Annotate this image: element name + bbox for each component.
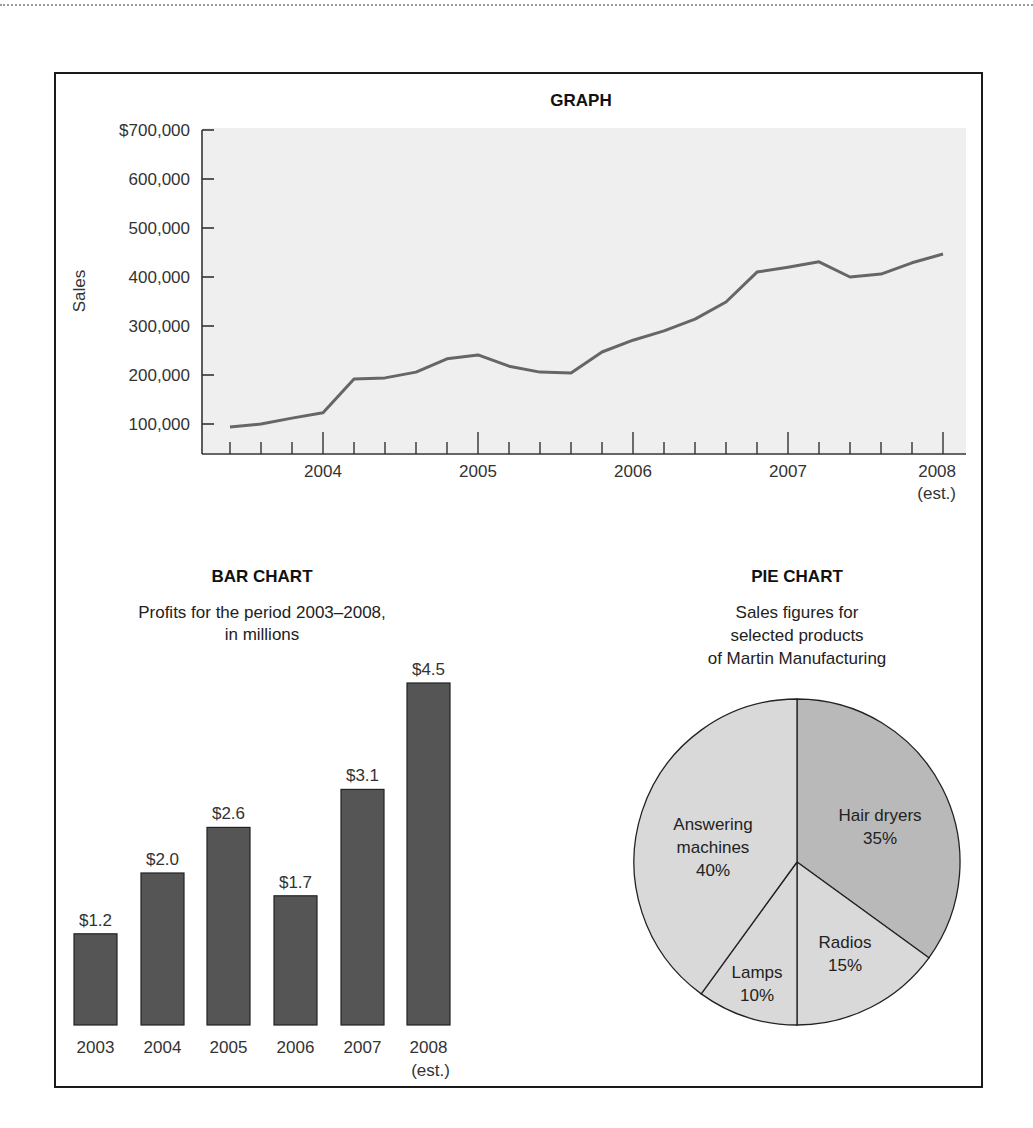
line-graph: GRAPH $700,000600,000500,000400,000300,0… (70, 91, 966, 503)
bar-2004 (141, 873, 184, 1025)
bar-value-label: $2.0 (146, 850, 179, 869)
pie-label-hair-dryers: Hair dryers (838, 806, 921, 825)
bar-2007 (341, 789, 384, 1025)
charts-canvas: GRAPH $700,000600,000500,000400,000300,0… (0, 0, 1033, 1128)
y-tick-label: 500,000 (129, 219, 190, 238)
bar-year-label: 2007 (344, 1038, 382, 1057)
pie-label-machines: machines (677, 838, 750, 857)
bar-est-note: (est.) (411, 1061, 450, 1080)
y-tick-label: 600,000 (129, 170, 190, 189)
bar-year-label: 2004 (144, 1038, 182, 1057)
x-tick-label: 2006 (614, 462, 652, 481)
x-est-note: (est.) (917, 484, 956, 503)
bar-chart-subtitle-2: in millions (225, 625, 300, 644)
y-tick-label: 100,000 (129, 415, 190, 434)
pie-slices (634, 699, 960, 1025)
y-tick-label: 200,000 (129, 366, 190, 385)
x-tick-label: 2008 (918, 462, 956, 481)
pie-label-lamps: Lamps (731, 963, 782, 982)
x-tick-label: 2005 (459, 462, 497, 481)
y-tick-label: $700,000 (119, 121, 190, 140)
bar-value-label: $1.2 (79, 911, 112, 930)
plot-area (203, 128, 966, 453)
pie-pct-hair-dryers: 35% (863, 829, 897, 848)
bar-value-label: $2.6 (212, 804, 245, 823)
x-tick-label: 2004 (304, 462, 342, 481)
bar-value-label: $4.5 (412, 660, 445, 679)
pie-chart: PIE CHART Sales figures for selected pro… (634, 567, 960, 1025)
bar-2005 (207, 827, 250, 1025)
pie-pct-answering-machines: 40% (696, 861, 730, 880)
bar-year-label: 2005 (210, 1038, 248, 1057)
x-tick-labels: 20042005200620072008(est.) (304, 462, 956, 503)
bar-2006 (274, 896, 317, 1025)
pie-chart-subtitle-3: of Martin Manufacturing (708, 649, 887, 668)
pie-chart-subtitle-2: selected products (730, 626, 863, 645)
y-tick-label: 300,000 (129, 317, 190, 336)
bar-value-label: $1.7 (279, 873, 312, 892)
pie-label-radios: Radios (819, 933, 872, 952)
bar-value-label: $3.1 (346, 766, 379, 785)
bar-chart: BAR CHART Profits for the period 2003–20… (74, 567, 450, 1080)
y-axis-label: Sales (70, 270, 89, 313)
bar-chart-title: BAR CHART (211, 567, 313, 586)
bar-2003 (74, 934, 117, 1025)
y-tick-label: 400,000 (129, 268, 190, 287)
graph-title: GRAPH (550, 91, 611, 110)
pie-chart-subtitle-1: Sales figures for (736, 603, 859, 622)
pie-chart-title: PIE CHART (751, 567, 843, 586)
bar-year-label: 2006 (277, 1038, 315, 1057)
bars: $1.22003$2.02004$2.62005$1.72006$3.12007… (74, 660, 450, 1080)
bar-2008 (407, 683, 450, 1025)
bar-year-label: 2008 (410, 1038, 448, 1057)
y-ticks: $700,000600,000500,000400,000300,000200,… (119, 121, 214, 434)
bar-chart-subtitle-1: Profits for the period 2003–2008, (138, 603, 386, 622)
bar-year-label: 2003 (77, 1038, 115, 1057)
pie-pct-radios: 15% (828, 956, 862, 975)
pie-label-answering: Answering (673, 815, 752, 834)
x-tick-label: 2007 (769, 462, 807, 481)
pie-pct-lamps: 10% (740, 986, 774, 1005)
